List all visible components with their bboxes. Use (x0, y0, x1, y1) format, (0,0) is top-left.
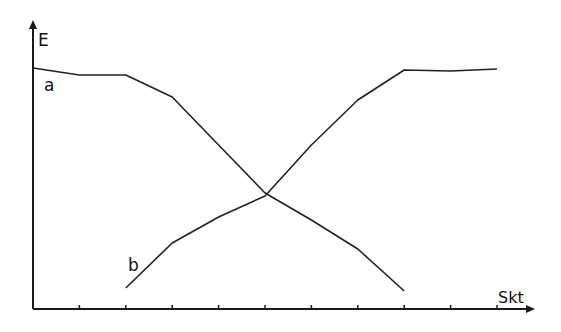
series-b-label: b (128, 255, 139, 275)
series-b-line (126, 69, 497, 288)
y-axis-label: E (38, 30, 49, 50)
x-axis-arrow-icon (526, 305, 535, 313)
x-axis-label: Skt (498, 288, 524, 307)
series-a-label: a (44, 75, 54, 95)
chart-canvas: E Skt a b (0, 0, 561, 332)
series-a-line (33, 68, 404, 291)
y-axis-arrow-icon (29, 20, 37, 29)
